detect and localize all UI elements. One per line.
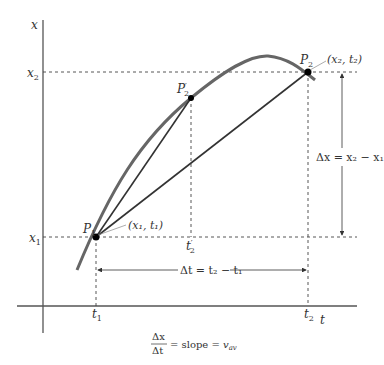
p2-coord-label: (x₂, t₂) bbox=[327, 53, 362, 66]
formula-rest: = slope = vav bbox=[170, 339, 237, 352]
p1-coord-leader bbox=[98, 225, 126, 235]
delta-x-label: Δx = x₂ − x₁ bbox=[316, 151, 384, 164]
x1-tick-label: x1 bbox=[29, 231, 41, 247]
p2-label: P2 bbox=[299, 53, 313, 69]
position-time-diagram: x t x2 x1 t1 t2 t′2 P1 (x₁, t₁) P2 (x₂, … bbox=[0, 0, 384, 365]
secant-p1-p2 bbox=[96, 72, 308, 237]
p2-prime-label: P′2 bbox=[176, 81, 189, 98]
formula-denominator: Δt bbox=[152, 345, 163, 356]
t1-tick-label: t1 bbox=[92, 307, 102, 323]
t2-tick-label: t2 bbox=[304, 307, 314, 323]
secant-p1-p2-prime bbox=[96, 98, 191, 237]
delta-t-label: Δt = t₂ − t₁ bbox=[180, 264, 242, 277]
position-curve bbox=[77, 56, 315, 270]
x2-tick-label: x2 bbox=[27, 66, 39, 82]
horizontal-axis-label: t bbox=[320, 313, 325, 327]
slope-formula: Δx Δt = slope = vav bbox=[151, 331, 237, 356]
p1-label: P1 bbox=[82, 222, 96, 238]
formula-numerator: Δx bbox=[152, 331, 165, 342]
p1-coord-label: (x₁, t₁) bbox=[128, 219, 163, 232]
vertical-axis-label: x bbox=[31, 18, 38, 32]
t2-prime-tick-label: t′2 bbox=[186, 238, 195, 255]
